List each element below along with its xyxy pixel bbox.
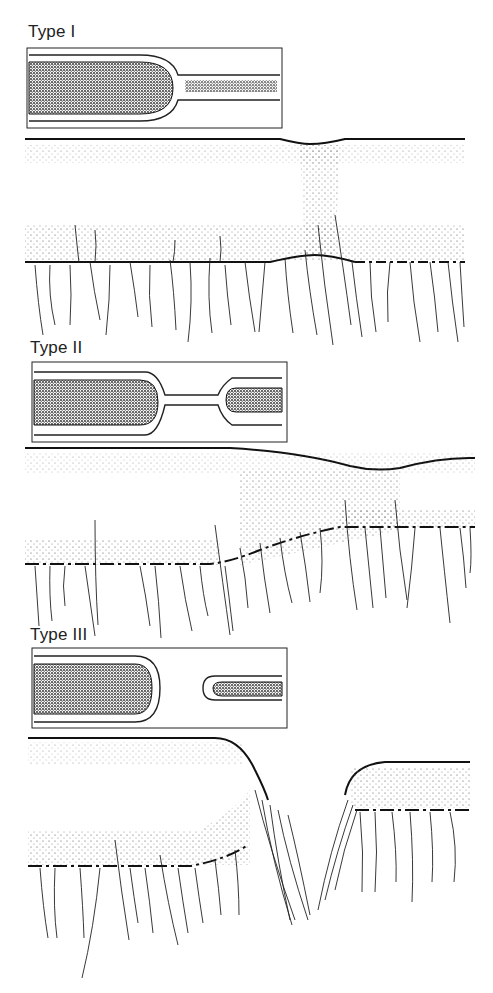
type-2-cross-section [25, 448, 475, 638]
diagram-canvas [0, 0, 493, 993]
type-2-inset [32, 362, 287, 442]
type-1-inset [27, 48, 282, 128]
type-3-cross-section [28, 738, 470, 978]
type-3-inset [32, 648, 287, 728]
type-1-cross-section [25, 139, 465, 345]
